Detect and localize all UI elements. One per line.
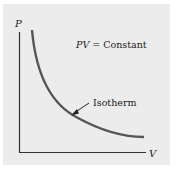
pv-plot: P V PV = Constant Isotherm <box>0 0 178 174</box>
x-axis-label: V <box>149 148 158 159</box>
pv-diagram: P V PV = Constant Isotherm <box>0 0 178 174</box>
isotherm-label: Isotherm <box>93 97 136 108</box>
y-axis-label: P <box>14 18 22 29</box>
equation-label: PV = Constant <box>75 39 147 50</box>
